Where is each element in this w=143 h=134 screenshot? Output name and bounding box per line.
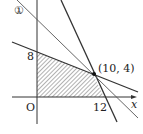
line-1-label: ① [14,4,24,17]
line-1 [17,0,138,118]
x-axis-label: x [131,98,138,111]
intersection-label: (10, 4) [98,62,135,75]
x-intercept-label: 12 [93,101,107,114]
line-b [61,0,117,122]
intersection-point [92,72,96,76]
diagram: ① 8 O 12 x (10, 4) [0,0,143,134]
origin-label: O [26,101,35,114]
y-intercept-label: 8 [27,50,34,63]
